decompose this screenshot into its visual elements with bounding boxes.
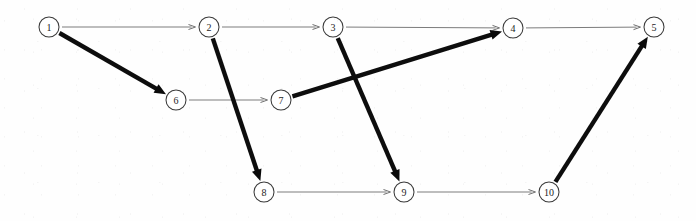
- node-label: 7: [279, 95, 284, 106]
- node-label: 1: [47, 22, 52, 33]
- edge-3-to-9: [338, 38, 400, 181]
- node-label: 8: [262, 187, 267, 198]
- node-5[interactable]: 5: [644, 17, 664, 37]
- node-3[interactable]: 3: [323, 17, 343, 37]
- edge-4-to-5: [526, 25, 641, 30]
- node-label: 4: [511, 23, 516, 34]
- arrowhead-icon: [252, 169, 261, 181]
- edge-2-to-3: [222, 25, 320, 30]
- node-10[interactable]: 10: [539, 182, 559, 202]
- graph-canvas: 12345678910: [0, 0, 696, 221]
- edge-8-to-9: [277, 190, 391, 195]
- node-7[interactable]: 7: [271, 90, 291, 110]
- node-2[interactable]: 2: [199, 17, 219, 37]
- edge-layer: [59, 25, 647, 195]
- node-label: 3: [331, 22, 336, 33]
- node-label: 9: [402, 187, 407, 198]
- edge-6-to-7: [189, 98, 268, 103]
- edge-line: [526, 27, 637, 28]
- node-label: 5: [652, 22, 657, 33]
- node-8[interactable]: 8: [254, 182, 274, 202]
- edge-3-to-4: [346, 25, 500, 30]
- edge-7-to-4: [292, 30, 502, 96]
- node-4[interactable]: 4: [503, 18, 523, 38]
- edge-line: [59, 33, 158, 90]
- node-layer: 12345678910: [39, 17, 664, 202]
- edge-line: [346, 27, 496, 28]
- edge-9-to-10: [417, 190, 536, 195]
- edge-line: [292, 34, 494, 97]
- node-1[interactable]: 1: [39, 17, 59, 37]
- node-6[interactable]: 6: [166, 90, 186, 110]
- graph-diagram: 12345678910: [0, 0, 696, 221]
- node-label: 6: [174, 95, 179, 106]
- node-label: 2: [207, 22, 212, 33]
- edge-line: [213, 38, 258, 173]
- edge-2-to-8: [213, 38, 262, 181]
- arrowhead-icon: [490, 30, 502, 40]
- edge-line: [555, 44, 643, 182]
- edge-1-to-2: [62, 25, 196, 30]
- node-9[interactable]: 9: [394, 182, 414, 202]
- node-label: 10: [544, 187, 554, 198]
- edge-1-to-6: [59, 33, 166, 94]
- edge-10-to-5: [555, 37, 647, 182]
- edge-line: [338, 38, 396, 174]
